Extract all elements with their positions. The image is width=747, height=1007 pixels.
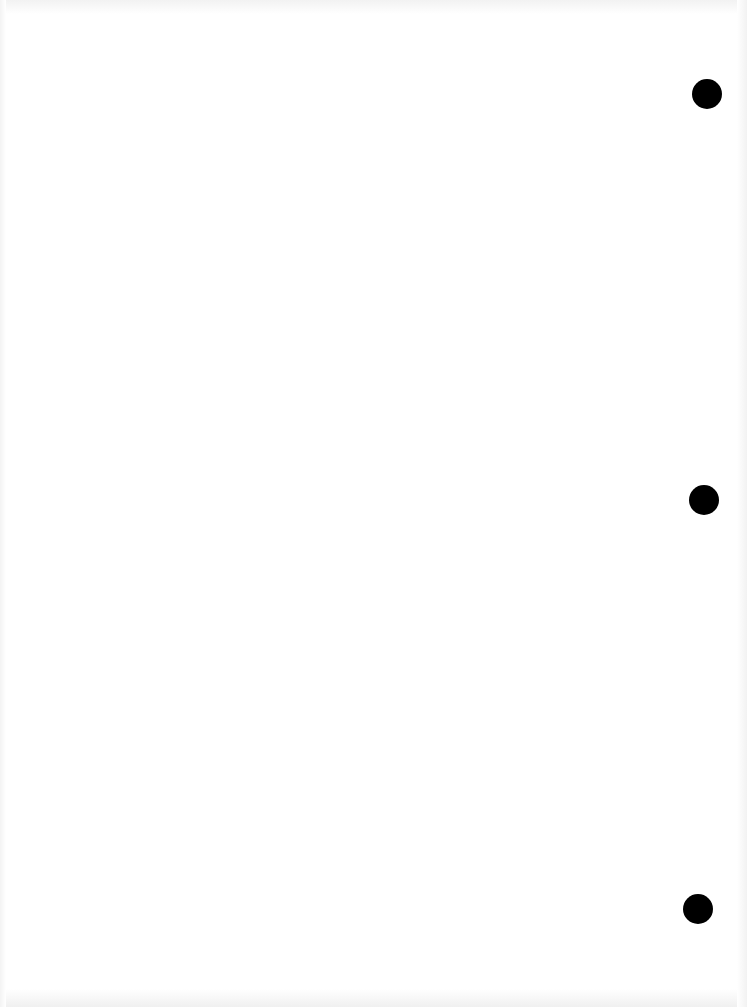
punch-hole-middle xyxy=(689,485,719,515)
blank-page xyxy=(0,0,747,1007)
punch-hole-bottom xyxy=(683,894,713,924)
scan-edge-top xyxy=(0,0,747,14)
scan-edge-bottom xyxy=(0,989,747,1007)
scan-edge-right xyxy=(737,0,747,1007)
scan-edge-left xyxy=(0,0,6,1007)
punch-hole-top xyxy=(692,79,722,109)
